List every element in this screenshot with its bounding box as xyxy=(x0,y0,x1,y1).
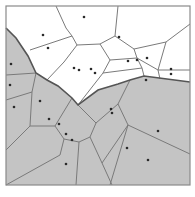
site-point xyxy=(118,36,121,39)
site-point xyxy=(9,84,12,87)
site-point xyxy=(47,47,50,50)
site-point xyxy=(58,123,61,126)
site-point xyxy=(65,133,68,136)
site-point xyxy=(73,67,76,70)
site-point xyxy=(146,57,149,60)
site-point xyxy=(65,163,68,166)
site-point xyxy=(90,68,93,71)
site-point xyxy=(13,106,16,109)
site-point xyxy=(94,72,97,75)
site-point xyxy=(42,34,45,37)
site-point xyxy=(127,60,130,63)
site-point xyxy=(170,68,173,71)
site-point xyxy=(83,16,86,19)
site-point xyxy=(147,159,150,162)
site-point xyxy=(145,79,148,82)
site-point xyxy=(157,130,160,133)
site-point xyxy=(71,139,74,142)
site-point xyxy=(126,147,129,150)
site-point xyxy=(78,69,81,72)
site-point xyxy=(170,73,173,76)
voronoi-diagram xyxy=(0,0,195,197)
site-point xyxy=(111,112,114,115)
site-point xyxy=(10,63,13,66)
site-point xyxy=(48,118,51,121)
site-point xyxy=(39,100,42,103)
site-point xyxy=(136,59,139,62)
site-point xyxy=(110,108,113,111)
